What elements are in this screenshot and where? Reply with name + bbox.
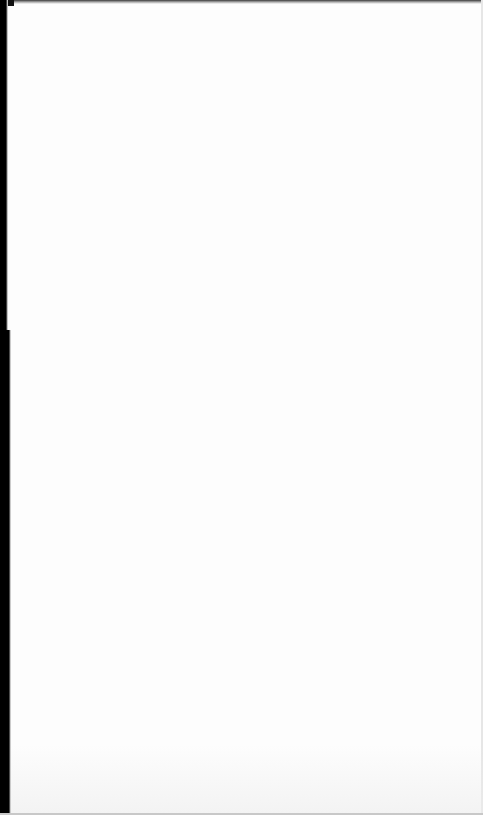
scan-top-edge [0,0,483,4]
scan-left-edge-lower [0,330,11,815]
paper-texture-shade [11,745,483,815]
